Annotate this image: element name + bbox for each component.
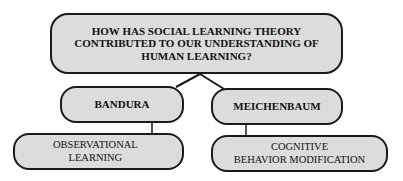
- bandura-label: BANDURA: [95, 98, 150, 111]
- root-question-label: HOW HAS SOCIAL LEARNING THEORY CONTRIBUT…: [74, 25, 318, 63]
- connector-root-bandura: [176, 74, 200, 87]
- cognitive-behavior-modification-label: COGNITIVE BEHAVIOR MODIFICATION: [234, 141, 365, 165]
- bandura-node: BANDURA: [60, 86, 184, 123]
- root-question-node: HOW HAS SOCIAL LEARNING THEORY CONTRIBUT…: [50, 13, 343, 74]
- observational-learning-label: OBSERVATIONAL LEARNING: [53, 139, 138, 163]
- observational-learning-node: OBSERVATIONAL LEARNING: [13, 133, 184, 170]
- meichenbaum-label: MEICHENBAUM: [233, 100, 320, 113]
- connector-root-meichenbaum: [200, 74, 224, 89]
- meichenbaum-node: MEICHENBAUM: [211, 88, 343, 125]
- cognitive-behavior-modification-node: COGNITIVE BEHAVIOR MODIFICATION: [211, 135, 388, 172]
